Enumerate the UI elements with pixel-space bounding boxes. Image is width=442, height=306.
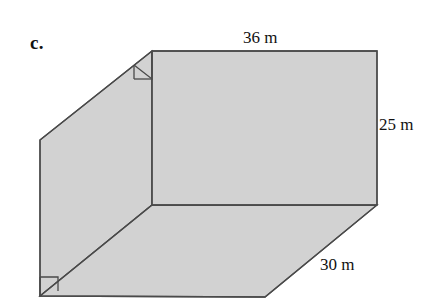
item-letter-label: c.	[30, 33, 44, 52]
dimension-label-length: 36 m	[243, 29, 277, 46]
dimension-label-height: 25 m	[379, 116, 413, 133]
figure-container: c. 36 m 25 m 30 m	[0, 0, 442, 306]
prism-front-face	[152, 51, 377, 205]
rectangular-prism-drawing	[0, 0, 442, 306]
dimension-label-depth: 30 m	[320, 256, 354, 273]
